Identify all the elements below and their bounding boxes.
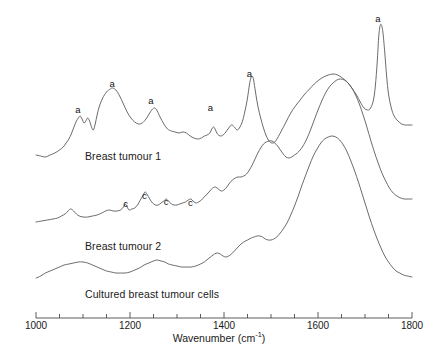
spectra-figure: Breast tumour 1Breast tumour 2Cultured b… <box>0 0 438 364</box>
spectrum-trace-1 <box>36 24 412 157</box>
series-label-1: Breast tumour 1 <box>85 150 161 162</box>
peak-label-c-2-2: c <box>142 190 147 201</box>
peak-label-a-1-1: a <box>75 104 80 115</box>
x-axis-title-exponent: -1 <box>255 330 262 339</box>
x-axis <box>36 312 412 318</box>
series-label-2: Breast tumour 2 <box>85 240 161 252</box>
x-axis-title-base: Wavenumber (cm <box>173 332 255 344</box>
peak-label-a-1-3: a <box>148 95 153 106</box>
peak-label-c-2-3: c <box>164 196 169 207</box>
peak-label-a-1-4: a <box>208 102 213 113</box>
peak-label-a-1-2: a <box>110 78 115 89</box>
series-label-3: Cultured breast tumour cells <box>85 288 219 300</box>
peak-label-c-2-1: c <box>123 198 128 209</box>
spectra-plot <box>0 0 438 364</box>
x-axis-title-close: ) <box>262 332 266 344</box>
peak-label-a-1-6: a <box>375 13 380 24</box>
x-axis-title: Wavenumber (cm-1) <box>0 330 438 344</box>
peak-label-a-1-5: a <box>247 68 252 79</box>
peak-label-c-2-4: c <box>188 197 193 208</box>
